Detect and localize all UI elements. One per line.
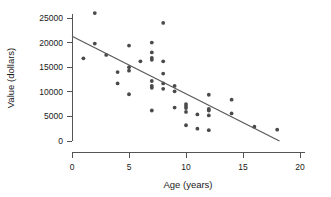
x-tick-label: 20 [295, 162, 305, 172]
data-point [127, 69, 131, 73]
data-point [150, 41, 154, 45]
data-point [150, 86, 154, 90]
data-point [196, 127, 200, 131]
scatter-chart: 0500010000150002000025000 05101520 Age (… [0, 0, 331, 197]
data-point [173, 89, 177, 93]
y-tick-label: 10000 [39, 87, 63, 97]
data-point [207, 93, 211, 97]
y-tick-label: 15000 [39, 62, 63, 72]
data-point [230, 98, 234, 102]
data-point [161, 21, 165, 25]
data-point [116, 70, 120, 74]
data-point [207, 128, 211, 132]
x-axis-label: Age (years) [163, 179, 212, 190]
y-tick-label: 25000 [39, 13, 63, 23]
data-point [150, 109, 154, 113]
y-tick-label: 5000 [44, 111, 63, 121]
data-point [127, 44, 131, 48]
data-point [207, 109, 211, 113]
data-point [93, 11, 97, 15]
data-point [127, 92, 131, 96]
data-point [207, 114, 211, 118]
y-axis-ticks: 0500010000150002000025000 [39, 13, 72, 146]
y-tick-label: 0 [58, 136, 63, 146]
data-point [161, 72, 165, 76]
data-point [230, 112, 234, 116]
data-point [184, 110, 188, 114]
data-point [150, 58, 154, 62]
data-point [150, 79, 154, 83]
axes [72, 14, 305, 152]
x-tick-label: 5 [127, 162, 132, 172]
data-point [173, 106, 177, 110]
data-point [275, 128, 279, 132]
trend-line-group [72, 36, 279, 141]
x-tick-label: 0 [70, 162, 75, 172]
data-point [93, 42, 97, 46]
data-points [82, 11, 280, 132]
data-point [161, 87, 165, 91]
data-point [161, 59, 165, 63]
data-point [82, 56, 86, 60]
data-point [184, 106, 188, 110]
data-point [184, 123, 188, 127]
x-tick-label: 10 [181, 162, 191, 172]
x-axis-ticks: 05101520 [70, 152, 305, 172]
data-point [196, 113, 200, 117]
y-tick-label: 20000 [39, 38, 63, 48]
y-axis-label: Value (dollars) [5, 48, 16, 109]
data-point [139, 59, 143, 63]
data-point [116, 82, 120, 86]
data-point [150, 51, 154, 55]
x-tick-label: 15 [238, 162, 248, 172]
chart-canvas: 0500010000150002000025000 05101520 Age (… [0, 0, 331, 197]
trend-line [72, 36, 279, 141]
